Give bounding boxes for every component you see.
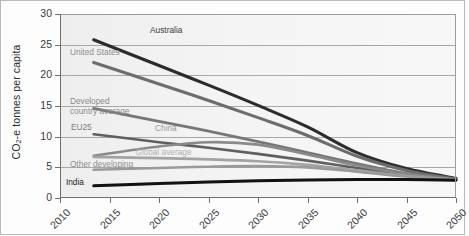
plot-border-right [455,14,456,198]
y-tick-label-20: 20 [26,68,52,80]
series-label-india: India [66,178,84,188]
x-tick-mark-2050 [456,198,457,203]
y-tick-label-15: 15 [26,99,52,111]
plot-border-left [60,14,61,198]
x-tick-mark-2010 [60,198,61,203]
y-axis-title: CO2-e tonnes per capita [10,22,24,182]
line-india [94,180,456,186]
y-tick-label-25: 25 [26,38,52,50]
y-axis-title-prefix: CO [10,143,22,159]
series-label-united-states: United States [70,48,120,58]
series-label-developed-country-average: Developed country average [70,97,132,116]
series-label-other-developing: Other developing [70,160,133,170]
y-tick-label-30: 30 [26,7,52,19]
plot-area: AustraliaUnited StatesDeveloped country … [60,14,456,198]
y-tick-label-10: 10 [26,130,52,142]
x-tick-mark-2025 [209,198,210,203]
series-label-eu25: EU25 [71,123,92,133]
y-axis-title-subscript: 2 [14,139,23,143]
series-label-china: China [155,124,177,134]
x-tick-mark-2040 [357,198,358,203]
series-label-global-average: Global average [135,148,191,158]
x-tick-mark-2015 [110,198,111,203]
x-tick-mark-2035 [308,198,309,203]
y-tick-label-0: 0 [26,191,52,203]
x-tick-mark-2030 [258,198,259,203]
y-axis-title-suffix: -e tonnes per capita [10,45,22,140]
x-tick-mark-2045 [407,198,408,203]
plot-border-top [60,14,456,15]
series-label-australia: Australia [150,26,182,36]
y-tick-label-5: 5 [26,160,52,172]
x-tick-mark-2020 [159,198,160,203]
